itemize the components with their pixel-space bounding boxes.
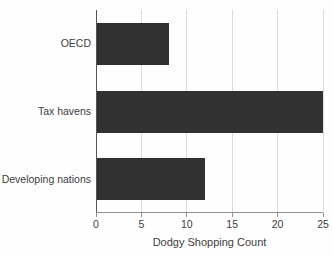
x-tick-mark-15 [232,213,233,217]
x-axis-title: Dodgy Shopping Count [96,236,323,249]
x-tick-label-15: 15 [226,219,238,230]
y-axis-line [96,10,97,213]
x-tick-mark-10 [186,213,187,217]
x-tick-mark-0 [96,213,97,217]
y-label-tax-havens: Tax havens [0,105,91,118]
x-tick-mark-25 [323,213,324,217]
x-tick-mark-20 [277,213,278,217]
x-tick-label-5: 5 [138,219,144,230]
x-tick-label-20: 20 [272,219,284,230]
x-tick-label-25: 25 [317,219,329,230]
x-axis-ticks: 0510152025 [96,213,323,237]
y-label-developing-nations: Developing nations [0,173,91,186]
y-axis-category-labels: OECDTax havensDeveloping nations [0,10,91,213]
bar-developing-nations [96,158,205,200]
bar-tax-havens [96,91,323,133]
bar-chart-figure: OECDTax havensDeveloping nations 0510152… [0,0,333,257]
bar-oecd [96,23,169,65]
plot-area [96,10,323,213]
y-label-oecd: OECD [0,37,91,50]
x-tick-label-10: 10 [181,219,193,230]
x-tick-mark-5 [141,213,142,217]
x-tick-label-0: 0 [93,219,99,230]
